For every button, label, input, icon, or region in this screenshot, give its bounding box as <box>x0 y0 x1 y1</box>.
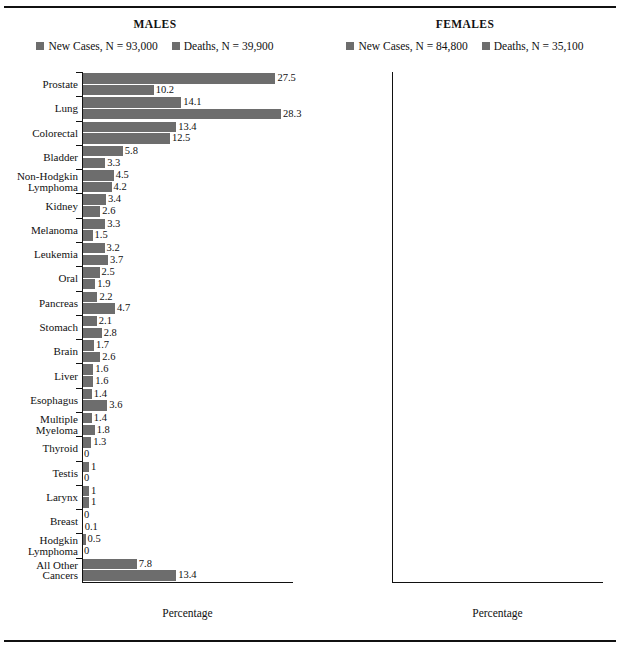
bar-new-cases: 4.5 <box>82 170 129 181</box>
chart-row: Multiple Myeloma1.41.8 <box>0 412 310 436</box>
bar-rect-deaths <box>82 400 107 411</box>
legend-swatch-new-cases-icon <box>346 42 354 50</box>
bar-deaths: 1.6 <box>82 376 108 387</box>
bar-value-new-cases: 27.5 <box>275 73 295 84</box>
chart-row: Melanoma3.31.5 <box>0 218 310 242</box>
bar-value-deaths: 1.6 <box>93 376 108 387</box>
bar-value-deaths: 2.8 <box>102 328 117 339</box>
y-tick <box>76 533 82 534</box>
bar-deaths: 28.3 <box>82 109 301 120</box>
chart-row: Bladder5.83.3 <box>0 145 310 169</box>
plot-area-males: Prostate27.510.2Lung14.128.3Colorectal13… <box>0 72 310 617</box>
x-axis-title: Percentage <box>392 607 603 619</box>
category-label: Testis <box>0 467 78 478</box>
bar-value-deaths: 0 <box>82 546 89 557</box>
legend-males: New Cases, N = 93,000 Deaths, N = 39,900 <box>0 40 310 52</box>
bar-value-new-cases: 4.5 <box>114 170 129 181</box>
bar-group: 1.30 <box>82 436 106 460</box>
bar-deaths: 0 <box>82 546 101 557</box>
bar-value-deaths: 0 <box>82 473 89 484</box>
bar-rect-new-cases <box>82 122 176 133</box>
category-label: Oral <box>0 273 78 284</box>
bar-group: 27.510.2 <box>82 72 296 96</box>
bar-new-cases: 2.2 <box>82 292 130 303</box>
bar-value-deaths: 0.1 <box>83 522 98 533</box>
bottom-rule <box>4 640 616 642</box>
y-tick <box>76 363 82 364</box>
bar-rect-new-cases <box>82 559 137 570</box>
category-label: Colorectal <box>0 127 78 138</box>
bar-rect-deaths <box>82 133 170 144</box>
bar-deaths: 4.7 <box>82 303 130 314</box>
bar-value-new-cases: 5.8 <box>123 146 138 157</box>
chart-row: Non-Hodgkin Lymphoma4.54.2 <box>0 169 310 193</box>
legend-swatch-deaths-icon <box>172 42 180 50</box>
bar-value-deaths: 3.6 <box>107 400 122 411</box>
bar-deaths: 0.1 <box>82 522 98 533</box>
bar-new-cases: 27.5 <box>82 73 296 84</box>
bar-new-cases: 3.2 <box>82 243 123 254</box>
legend-label-deaths: Deaths, N = 35,100 <box>494 40 584 52</box>
y-axis-line <box>392 72 393 582</box>
bar-group: 1.72.6 <box>82 339 115 363</box>
bar-new-cases: 3.4 <box>82 194 121 205</box>
bar-new-cases: 1 <box>82 462 96 473</box>
bar-value-deaths: 4.7 <box>115 303 130 314</box>
bar-rect-new-cases <box>82 194 106 205</box>
bar-rect-new-cases <box>82 292 97 303</box>
bar-value-new-cases: 2.2 <box>97 292 112 303</box>
category-label: Hodgkin Lymphoma <box>0 535 78 556</box>
bar-rect-deaths <box>82 376 93 387</box>
chart-row: Liver1.61.6 <box>0 363 310 387</box>
bar-rect-new-cases <box>82 73 275 84</box>
bar-deaths: 2.8 <box>82 328 117 339</box>
bar-group: 2.51.9 <box>82 266 115 290</box>
bar-new-cases: 0 <box>82 510 98 521</box>
bar-rect-deaths <box>82 85 154 96</box>
panel-females: FEMALES New Cases, N = 84,800 Deaths, N … <box>310 14 620 634</box>
bar-deaths: 2.6 <box>82 352 115 363</box>
y-tick <box>76 266 82 267</box>
legend-item-new-cases: New Cases, N = 84,800 <box>346 40 467 52</box>
bar-value-deaths: 13.4 <box>176 570 196 581</box>
category-label: Pancreas <box>0 297 78 308</box>
y-tick <box>76 485 82 486</box>
bar-rect-deaths <box>82 570 176 581</box>
bar-value-new-cases: 1.4 <box>92 389 107 400</box>
panel-title-males: MALES <box>0 18 310 30</box>
bar-value-new-cases: 1.4 <box>92 413 107 424</box>
category-label: Bladder <box>0 152 78 163</box>
bar-value-new-cases: 13.4 <box>176 122 196 133</box>
legend-swatch-deaths-icon <box>482 42 490 50</box>
bar-value-new-cases: 1 <box>89 486 96 497</box>
top-rule <box>4 6 616 8</box>
bar-value-deaths: 1.5 <box>93 230 108 241</box>
bar-value-deaths: 1 <box>89 497 96 508</box>
bar-rect-deaths <box>82 182 112 193</box>
x-axis-line <box>392 582 603 583</box>
chart-row: Testis10 <box>0 461 310 485</box>
category-label: Multiple Myeloma <box>0 414 78 435</box>
y-tick <box>76 509 82 510</box>
bar-value-new-cases: 1.3 <box>91 437 106 448</box>
bar-new-cases: 3.3 <box>82 219 120 230</box>
category-label: Liver <box>0 370 78 381</box>
bar-deaths: 3.7 <box>82 255 123 266</box>
bar-group: 3.31.5 <box>82 218 120 242</box>
legend-label-new-cases: New Cases, N = 93,000 <box>48 40 157 52</box>
x-axis-line <box>82 582 293 583</box>
chart-row: Leukemia3.23.7 <box>0 242 310 266</box>
bar-deaths: 10.2 <box>82 85 296 96</box>
category-label: Esophagus <box>0 395 78 406</box>
bar-group: 7.813.4 <box>82 558 197 582</box>
bar-value-deaths: 2.6 <box>100 352 115 363</box>
category-label: All Other Cancers <box>0 559 78 580</box>
bar-value-new-cases: 1 <box>89 462 96 473</box>
bar-rect-new-cases <box>82 316 97 327</box>
chart-row: Brain1.72.6 <box>0 339 310 363</box>
bar-value-new-cases: 0.5 <box>86 534 101 545</box>
chart-row: Kidney3.42.6 <box>0 193 310 217</box>
bar-deaths: 1.9 <box>82 279 115 290</box>
panel-males: MALES New Cases, N = 93,000 Deaths, N = … <box>0 14 310 634</box>
bar-value-new-cases: 7.8 <box>137 559 152 570</box>
